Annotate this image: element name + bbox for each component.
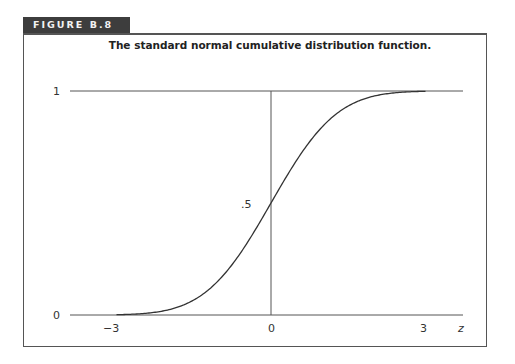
x-tick-3: 3	[420, 322, 427, 335]
y-tick-half: .5	[241, 198, 252, 211]
y-tick-0: 0	[53, 309, 60, 322]
x-tick-0: 0	[268, 322, 275, 335]
x-tick-neg3: −3	[103, 322, 119, 335]
cdf-plot: 1 .5 0 −3 0 3 z	[0, 0, 515, 364]
y-tick-1: 1	[53, 85, 60, 98]
x-axis-label: z	[457, 322, 464, 335]
